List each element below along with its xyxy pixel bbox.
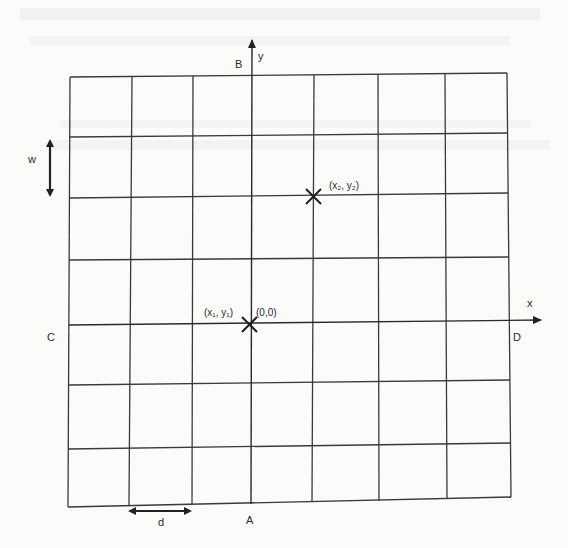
x-axis-label: x <box>527 297 533 309</box>
grid-vline-7 <box>507 73 511 497</box>
y-axis-label: y <box>258 50 264 62</box>
bottom-label-a: A <box>246 514 254 526</box>
left-label-c: C <box>47 331 55 343</box>
grid-vline-4 <box>312 75 314 502</box>
right-label-d: D <box>513 331 521 343</box>
grid-hline-3 <box>69 257 509 260</box>
grid-hline-1 <box>70 133 508 137</box>
y-axis <box>251 40 252 504</box>
point-1-label: (x₁, y₁) <box>204 307 233 318</box>
grid-hline-7 <box>68 497 511 507</box>
grid-vline-6 <box>445 74 447 499</box>
grid-hline-2 <box>69 193 508 198</box>
grid-hline-5 <box>69 380 510 385</box>
grid <box>68 73 511 507</box>
background-bleed-text <box>20 8 550 150</box>
grid-hline-6 <box>68 443 510 449</box>
width-dimension-label: w <box>27 153 36 165</box>
axes <box>69 40 541 504</box>
point-2-label: (x₂, y₂) <box>329 180 359 191</box>
point-origin-cross-icon <box>242 317 257 332</box>
spacing-dimension-label: d <box>158 516 164 528</box>
grid-hline-0 <box>70 73 507 77</box>
grid-diagram: y x B A C D (x₁, y₁) (0,0) (x₂, y₂) w d <box>0 0 568 548</box>
origin-label: (0,0) <box>256 307 277 318</box>
x-axis <box>69 320 541 325</box>
grid-vline-5 <box>378 74 379 501</box>
top-label-b: B <box>235 58 242 70</box>
